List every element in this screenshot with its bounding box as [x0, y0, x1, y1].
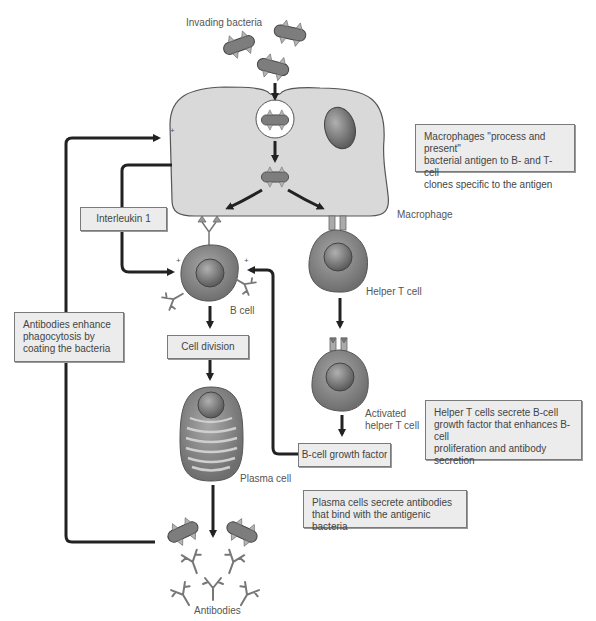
b-cell [161, 245, 256, 311]
antibodies-label: Antibodies [194, 605, 241, 617]
plasma-cells-note: Plasma cells secrete antibodies that bin… [303, 490, 467, 528]
activated-helper-t-cell-label: Activated helper T cell [365, 408, 419, 432]
b-cell-label: B cell [230, 305, 254, 317]
antibodies-enhance-note: Antibodies enhance phagocytosis by coati… [14, 312, 124, 362]
b-cell-growth-factor-box: B-cell growth factor [298, 443, 391, 467]
cell-division-box: Cell division [167, 335, 249, 359]
activated-helper-t-cell [312, 350, 368, 411]
helper-t-cell [309, 230, 368, 292]
diagram-canvas [0, 0, 596, 621]
invading-bacteria-label: Invading bacteria [186, 17, 262, 29]
helper-t-cells-note: Helper T cells secrete B-cell growth fac… [425, 400, 582, 460]
macrophages-note: Macrophages "process and present" bacter… [415, 124, 575, 172]
plasma-cell [180, 387, 243, 481]
helper-t-cell-label: Helper T cell [366, 286, 422, 298]
plus-sign: + [176, 256, 181, 265]
plus-sign: + [170, 126, 175, 135]
immune-response-diagram: Invading bacteria Macrophage B cell Help… [0, 0, 596, 621]
plasma-cell-label: Plasma cell [240, 473, 291, 485]
interleukin-box: Interleukin 1 [80, 207, 167, 231]
macrophage-label: Macrophage [397, 209, 453, 221]
plus-sign: + [244, 256, 249, 265]
